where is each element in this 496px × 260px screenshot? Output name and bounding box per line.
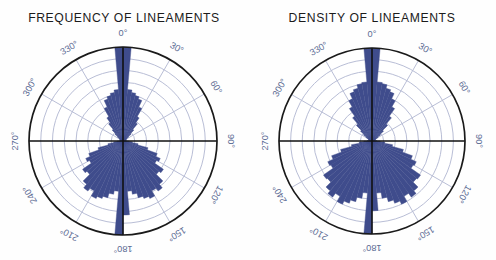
tick-label-60deg: 60° bbox=[456, 79, 472, 96]
tick-label-150deg: 150° bbox=[166, 225, 188, 243]
tick-label-300deg: 300° bbox=[21, 76, 39, 98]
tick-label-0deg: 0° bbox=[119, 28, 128, 38]
tick-label-240deg: 240° bbox=[270, 183, 288, 205]
tick-label-180deg: 180° bbox=[113, 244, 132, 254]
tick-label-270deg: 270° bbox=[260, 131, 270, 150]
rose-chart-density: 0°30°60°90°120°150°180°210°240°270°300°3… bbox=[248, 0, 496, 260]
tick-label-240deg: 240° bbox=[21, 184, 39, 206]
tick-label-270deg: 270° bbox=[10, 131, 20, 150]
tick-label-90deg: 90° bbox=[226, 134, 236, 148]
tick-label-120deg: 120° bbox=[455, 184, 473, 206]
tick-label-180deg: 180° bbox=[362, 243, 381, 253]
panel-frequency: FREQUENCY OF LINEAMENTS 0°30°60°90°120°1… bbox=[0, 0, 248, 260]
tick-label-60deg: 60° bbox=[208, 79, 224, 96]
tick-label-330deg: 330° bbox=[308, 39, 330, 57]
tick-label-210deg: 210° bbox=[308, 224, 330, 242]
rose-diagram-figure: FREQUENCY OF LINEAMENTS 0°30°60°90°120°1… bbox=[0, 0, 496, 260]
tick-label-90deg: 90° bbox=[474, 134, 484, 148]
tick-label-120deg: 120° bbox=[207, 184, 225, 206]
rose-chart-frequency: 0°30°60°90°120°150°180°210°240°270°300°3… bbox=[0, 0, 248, 260]
panel-density: DENSITY OF LINEAMENTS 0°30°60°90°120°150… bbox=[248, 0, 496, 260]
tick-label-330deg: 330° bbox=[58, 39, 80, 57]
tick-label-210deg: 210° bbox=[58, 225, 80, 243]
tick-label-150deg: 150° bbox=[414, 224, 436, 242]
tick-label-30deg: 30° bbox=[417, 41, 434, 57]
tick-label-30deg: 30° bbox=[168, 40, 185, 56]
tick-label-300deg: 300° bbox=[271, 77, 289, 99]
tick-label-0deg: 0° bbox=[368, 29, 377, 39]
